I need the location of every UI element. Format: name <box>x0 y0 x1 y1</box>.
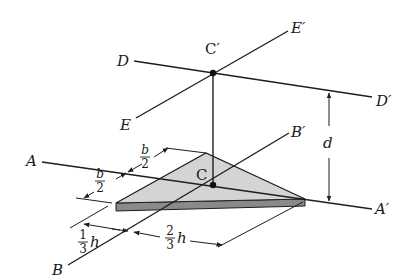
axis-dd <box>134 61 372 97</box>
h-two-thirds-arrow2 <box>190 241 222 245</box>
b-half-bottom-arrow2 <box>84 192 94 198</box>
h-two-thirds-arrow <box>134 232 160 237</box>
b-extension-top <box>166 148 206 153</box>
label-c: C <box>196 166 207 184</box>
label-a: A <box>24 152 37 170</box>
label-d-prime: D′ <box>375 92 392 110</box>
label-b-half-top: b 2 <box>140 143 150 171</box>
label-c-prime: C′ <box>205 40 220 58</box>
label-d: D <box>116 52 129 70</box>
svg-text:3: 3 <box>166 238 174 252</box>
svg-text:2: 2 <box>141 157 149 171</box>
svg-text:3: 3 <box>79 242 87 256</box>
b-half-top-arrow <box>154 148 168 157</box>
b-half-top-arrow2 <box>128 164 142 172</box>
label-e-prime: E′ <box>290 19 306 37</box>
label-b: B <box>51 261 63 278</box>
svg-text:1: 1 <box>79 228 87 242</box>
point-c <box>210 182 216 188</box>
label-b-prime: B′ <box>290 123 306 141</box>
svg-text:h: h <box>177 229 187 247</box>
svg-text:b: b <box>96 167 104 181</box>
label-b-half-bottom: b 2 <box>95 167 105 195</box>
svg-text:h: h <box>90 233 100 251</box>
svg-text:2: 2 <box>166 224 174 238</box>
diagram: C′ C D D′ E E′ A A′ B B′ d b 2 b 2 1 3 h… <box>0 0 408 278</box>
h-extension-right <box>218 202 303 247</box>
svg-text:2: 2 <box>96 181 104 195</box>
b-extension-bottom <box>76 198 112 203</box>
label-a-prime: A′ <box>373 200 390 218</box>
svg-text:b: b <box>141 143 149 157</box>
label-d-dimension: d <box>323 134 333 152</box>
label-h-two-thirds: 2 3 h <box>165 224 187 252</box>
label-e: E <box>119 116 131 134</box>
point-c-prime <box>210 70 216 76</box>
